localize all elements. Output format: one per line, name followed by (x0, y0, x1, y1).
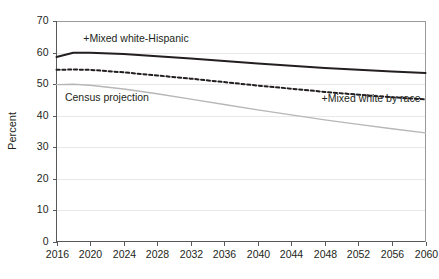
x-tick-label: 2028 (146, 248, 170, 260)
chart-figure: 010203040506070 201620202024202820322036… (0, 0, 439, 279)
x-axis: 2016202020242028203220362040204420482052… (46, 242, 439, 260)
x-tick-label: 2052 (347, 248, 371, 260)
series-annotation-label: +Mixed white by race (322, 92, 421, 104)
x-tick-label: 2040 (247, 248, 271, 260)
y-tick-label: 0 (43, 235, 49, 247)
series-annotation-label: +Mixed white-Hispanic (83, 32, 188, 44)
x-tick-label: 2044 (280, 248, 304, 260)
y-tick-label: 40 (37, 109, 49, 121)
line-chart: 010203040506070 201620202024202820322036… (0, 0, 439, 279)
annotations: +Mixed white-HispanicCensus projection+M… (65, 32, 421, 105)
x-tick-label: 2024 (113, 248, 137, 260)
series-annotation-label: Census projection (65, 91, 149, 103)
y-axis-title: Percent (6, 112, 18, 150)
x-tick-label: 2060 (415, 248, 439, 260)
x-tick-label: 2036 (213, 248, 237, 260)
y-tick-label: 50 (37, 77, 49, 89)
y-tick-label: 20 (37, 172, 49, 184)
x-tick-label: 2056 (381, 248, 405, 260)
x-tick-label: 2032 (180, 248, 204, 260)
y-tick-label: 30 (37, 140, 49, 152)
x-tick-label: 2016 (46, 248, 70, 260)
grid-lines (57, 22, 426, 211)
y-tick-label: 60 (37, 46, 49, 58)
series-line (57, 53, 426, 73)
x-tick-label: 2048 (314, 248, 338, 260)
y-tick-label: 10 (37, 203, 49, 215)
y-axis: 010203040506070 (37, 14, 57, 247)
x-tick-label: 2020 (79, 248, 103, 260)
y-tick-label: 70 (37, 14, 49, 26)
